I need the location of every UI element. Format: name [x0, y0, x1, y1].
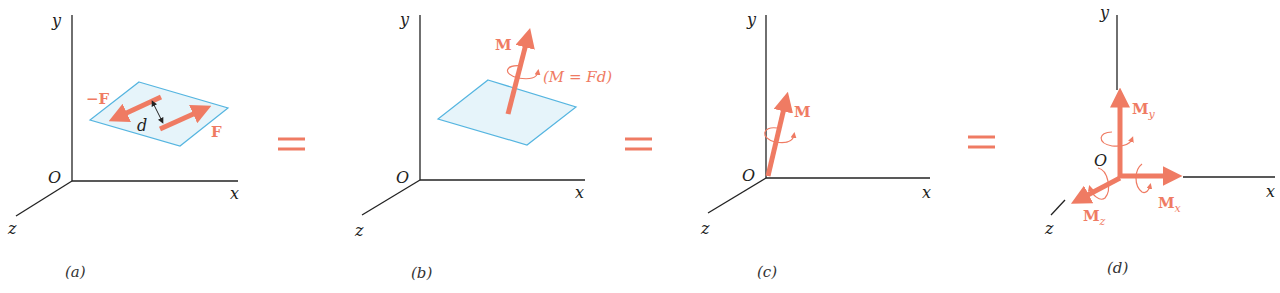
x-axis-label: x	[575, 183, 584, 202]
panel-c: y x z O M (c)	[700, 10, 931, 281]
moment-label: M	[495, 36, 512, 54]
x-axis-label: x	[1266, 182, 1275, 201]
axes-c: y x z O	[700, 10, 931, 238]
caption-d: (d)	[1107, 259, 1128, 277]
x-axis-label: x	[922, 183, 931, 202]
moment-curl-icon	[507, 66, 538, 79]
formula-label: (M = Fd)	[543, 68, 612, 86]
moment-label: M	[794, 103, 811, 121]
y-axis-label: y	[51, 11, 62, 30]
z-axis-label: z	[7, 219, 17, 238]
moment-x-label: Mx	[1158, 194, 1182, 215]
z-axis-label: z	[354, 221, 364, 240]
origin-label: O	[48, 168, 61, 187]
neg-force-label: −F	[86, 90, 110, 108]
panel-b: y x z O M (M = Fd) (b)	[354, 10, 612, 282]
origin-label: O	[742, 166, 755, 185]
origin-label: O	[396, 168, 409, 187]
moment-z-arrow	[1082, 178, 1120, 198]
caption-a: (a)	[65, 263, 86, 281]
moment-y-label: My	[1132, 100, 1156, 121]
z-axis-label: z	[1044, 219, 1054, 238]
couple-equivalence-diagram: y x z O −F F d (a) y x z O M (M = Fd) (b…	[0, 0, 1280, 293]
x-axis-label: x	[230, 184, 239, 203]
caption-c: (c)	[757, 263, 777, 281]
force-label: F	[211, 123, 222, 141]
y-axis-label: y	[1099, 3, 1110, 22]
distance-label: d	[137, 116, 147, 135]
origin-label: O	[1094, 151, 1107, 170]
panel-d: y x z O My Mx Mz (d)	[1044, 3, 1275, 277]
z-axis-label: z	[700, 219, 710, 238]
y-axis-label: y	[746, 10, 757, 29]
caption-b: (b)	[411, 264, 432, 282]
panel-a: y x z O −F F d (a)	[7, 11, 239, 281]
y-axis-label: y	[399, 10, 410, 29]
moment-y-curl-icon	[1101, 132, 1132, 146]
moment-z-label: Mz	[1083, 207, 1106, 228]
